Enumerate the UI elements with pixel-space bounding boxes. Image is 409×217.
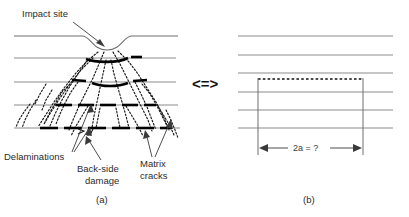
- panel-a-matrix-cracks: [16, 51, 178, 138]
- panel-b-caption: (b): [303, 194, 315, 205]
- matrix-cracks-label-line2: cracks: [140, 170, 168, 181]
- panel-b: 2a = ? (b): [238, 36, 393, 205]
- matrix-cracks-arrowhead-1: [143, 130, 150, 139]
- matrix-crack: [22, 100, 36, 128]
- dimension-arrowhead-left: [259, 144, 268, 152]
- dimension-2a: 2a = ?: [259, 143, 362, 153]
- dimension-arrowhead-right: [353, 144, 362, 152]
- figure-canvas: Impact site Delaminations Back-side dama…: [0, 0, 409, 217]
- panel-a-caption: (a): [96, 194, 108, 205]
- matrix-crack: [92, 60, 106, 128]
- impact-site-label: Impact site: [22, 8, 68, 19]
- delamination-segment: [92, 83, 128, 86]
- delamination-segment: [133, 80, 147, 81]
- matrix-cracks-label-line1: Matrix: [140, 158, 166, 169]
- panel-b-ply-lines: [238, 36, 393, 128]
- impact-damage-figure: Impact site Delaminations Back-side dama…: [0, 0, 409, 217]
- matrix-crack: [111, 60, 129, 128]
- matrix-crack: [16, 104, 30, 127]
- impact-site-annotation: Impact site: [22, 8, 105, 47]
- delaminations-label: Delaminations: [4, 151, 64, 162]
- dimension-2a-label: 2a = ?: [293, 143, 318, 153]
- matrix-crack: [35, 84, 46, 104]
- back-side-damage-label-line1: Back-side: [77, 163, 119, 174]
- back-side-damage-label-line2: damage: [85, 175, 119, 186]
- delamination-segment: [72, 80, 86, 81]
- back-side-damage-annotation: Back-side damage: [77, 136, 119, 186]
- matrix-crack: [71, 106, 88, 136]
- matrix-crack: [126, 106, 143, 136]
- delaminations-leader-1: [72, 107, 90, 152]
- equivalence-symbol: <=>: [192, 75, 219, 92]
- matrix-crack: [96, 108, 100, 128]
- panel-a-delaminations: [40, 57, 172, 128]
- matrix-crack: [116, 108, 120, 128]
- panel-a: Impact site Delaminations Back-side dama…: [4, 8, 180, 205]
- matrix-crack: [118, 51, 169, 130]
- panel-a-ply-lines: [14, 36, 180, 128]
- matrix-crack: [50, 52, 98, 126]
